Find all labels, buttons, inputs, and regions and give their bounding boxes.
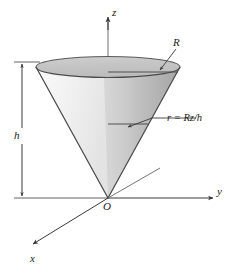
z-axis-label: z xyxy=(112,7,116,18)
y-axis-label: y xyxy=(217,186,222,197)
radius-formula-label: r = Rz/h xyxy=(167,113,202,124)
cone-diagram-canvas xyxy=(0,0,235,273)
cone-solid xyxy=(36,57,180,199)
height-dimension-label: h xyxy=(14,130,20,141)
top-radius-label: R xyxy=(173,37,180,48)
x-axis-label: x xyxy=(30,253,35,264)
cone-figure: z y x O h R r = Rz/h xyxy=(0,0,235,273)
origin-label: O xyxy=(103,201,111,212)
x-axis xyxy=(33,168,160,244)
